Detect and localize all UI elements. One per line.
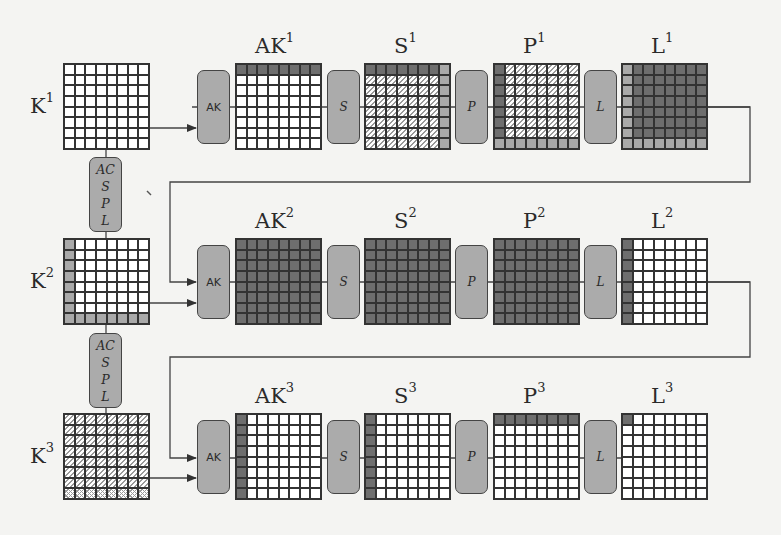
grid-cell	[696, 446, 707, 457]
grid-cell	[279, 457, 290, 468]
grid-cell	[494, 303, 505, 314]
grid-cell	[300, 425, 311, 436]
grid-cell	[289, 446, 300, 457]
grid-cell	[439, 75, 450, 86]
grid-cell	[547, 85, 558, 96]
key-schedule-step: P	[101, 195, 109, 212]
grid-cell	[547, 64, 558, 75]
key-schedule-step: L	[101, 212, 109, 229]
state-grid-l-2	[621, 238, 708, 325]
grid-cell	[526, 96, 537, 107]
grid-cell	[568, 457, 579, 468]
grid-cell	[376, 303, 387, 314]
grid-cell	[257, 303, 268, 314]
grid-cell	[128, 446, 139, 457]
grid-cell	[247, 425, 258, 436]
grid-cell	[429, 435, 440, 446]
state-label-p-3-superscript: 3	[537, 380, 545, 395]
grid-cell	[558, 292, 569, 303]
grid-cell	[686, 64, 697, 75]
grid-cell	[505, 414, 516, 425]
grid-cell	[96, 313, 107, 324]
grid-cell	[386, 75, 397, 86]
grid-cell	[310, 303, 321, 314]
grid-cell	[537, 414, 548, 425]
grid-cell	[75, 414, 86, 425]
grid-cell	[365, 467, 376, 478]
grid-cell	[236, 64, 247, 75]
grid-cell	[558, 425, 569, 436]
grid-cell	[686, 488, 697, 499]
grid-cell	[547, 250, 558, 261]
grid-cell	[96, 467, 107, 478]
grid-cell	[247, 435, 258, 446]
grid-cell	[408, 96, 419, 107]
grid-cell	[236, 271, 247, 282]
grid-cell	[107, 260, 118, 271]
state-label-s-2: S2	[394, 208, 417, 233]
grid-cell	[537, 303, 548, 314]
key-label-3: K3	[30, 443, 54, 468]
grid-cell	[622, 446, 633, 457]
grid-cell	[665, 138, 676, 149]
grid-cell	[418, 435, 429, 446]
state-label-p-3-text: P	[523, 384, 537, 408]
grid-cell	[85, 138, 96, 149]
key-label-1-superscript: 1	[46, 90, 54, 105]
grid-cell	[686, 425, 697, 436]
grid-cell	[376, 425, 387, 436]
grid-cell	[429, 282, 440, 293]
grid-cell	[505, 271, 516, 282]
grid-cell	[365, 64, 376, 75]
grid-cell	[236, 457, 247, 468]
grid-cell	[408, 292, 419, 303]
grid-cell	[236, 250, 247, 261]
grid-cell	[547, 96, 558, 107]
grid-cell	[128, 282, 139, 293]
grid-cell	[376, 239, 387, 250]
grid-cell	[568, 292, 579, 303]
grid-cell	[526, 85, 537, 96]
grid-cell	[439, 128, 450, 139]
grid-cell	[505, 64, 516, 75]
grid-cell	[279, 85, 290, 96]
grid-cell	[505, 467, 516, 478]
grid-cell	[633, 239, 644, 250]
grid-cell	[665, 260, 676, 271]
grid-cell	[85, 303, 96, 314]
grid-cell	[268, 435, 279, 446]
state-label-l-3-superscript: 3	[665, 380, 673, 395]
grid-cell	[568, 282, 579, 293]
grid-cell	[96, 303, 107, 314]
grid-cell	[515, 271, 526, 282]
grid-cell	[289, 425, 300, 436]
grid-cell	[96, 292, 107, 303]
grid-cell	[494, 478, 505, 489]
state-label-l-2: L2	[651, 208, 673, 233]
grid-cell	[128, 96, 139, 107]
grid-cell	[622, 260, 633, 271]
grid-cell	[236, 128, 247, 139]
state-label-s-2-superscript: 2	[408, 205, 416, 220]
grid-cell	[439, 85, 450, 96]
grid-cell	[429, 75, 440, 86]
grid-cell	[300, 467, 311, 478]
state-label-l-2-text: L	[651, 209, 665, 233]
grid-cell	[558, 282, 569, 293]
grid-cell	[505, 117, 516, 128]
grid-cell	[107, 282, 118, 293]
grid-cell	[675, 75, 686, 86]
grid-cell	[505, 239, 516, 250]
grid-cell	[558, 85, 569, 96]
grid-cell	[494, 488, 505, 499]
grid-cell	[526, 107, 537, 118]
grid-cell	[279, 260, 290, 271]
grid-cell	[75, 467, 86, 478]
grid-cell	[654, 271, 665, 282]
grid-cell	[675, 250, 686, 261]
grid-cell	[117, 128, 128, 139]
grid-cell	[85, 96, 96, 107]
grid-cell	[75, 117, 86, 128]
grid-cell	[675, 414, 686, 425]
grid-cell	[138, 435, 149, 446]
